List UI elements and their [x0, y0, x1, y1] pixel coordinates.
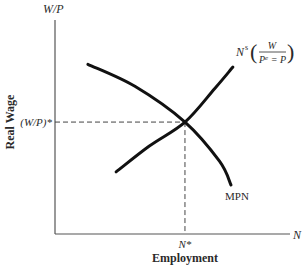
mpn-curve: [88, 64, 231, 185]
x-axis-label: Employment: [152, 251, 218, 265]
ns-label-frac-num: W: [268, 40, 278, 51]
y-axis-symbol: W/P: [43, 2, 64, 16]
ns-label-paren-left: (: [250, 39, 257, 64]
ns-label-main: N: [235, 45, 245, 59]
labor-supply-curve-label: N s ( W Pe = P ): [235, 39, 294, 65]
y-axis-label: Real Wage: [3, 94, 17, 149]
equilibrium-wage-label: (W/P)*: [20, 116, 52, 129]
equilibrium-employment-label: N*: [178, 238, 192, 250]
ns-label-den-base: P: [258, 54, 265, 65]
ns-label-den-rest: = P: [268, 54, 286, 65]
ns-label-sup: s: [245, 43, 248, 52]
ns-label-frac-den: Pe = P: [258, 54, 286, 65]
mpn-curve-label: MPN: [225, 190, 249, 202]
x-axis-symbol: N: [292, 228, 302, 242]
labor-market-diagram: W/P N Real Wage Employment (W/P)* N* MPN…: [0, 0, 302, 269]
ns-label-paren-right: ): [287, 39, 294, 64]
